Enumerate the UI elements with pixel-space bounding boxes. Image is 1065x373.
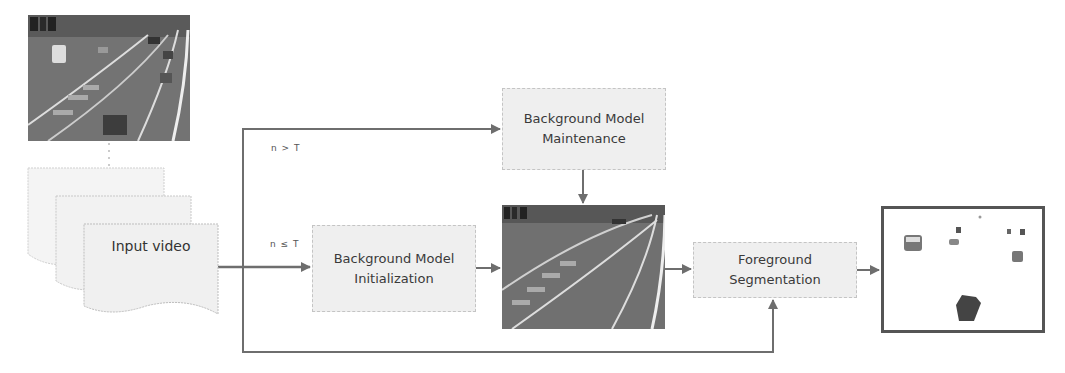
background-model-image [502,205,665,329]
condition-label-init: n ≤ T [270,239,299,249]
fg-label-line1: Foreground [738,250,812,270]
empty-highway-icon [502,205,665,329]
segmented-vehicles-icon [884,209,1042,330]
fg-label-line2: Segmentation [729,270,820,290]
foreground-output-image [881,206,1045,333]
input-frame-image [28,15,190,141]
highway-scene-icon [28,15,190,141]
maintenance-label-line1: Background Model [524,109,645,129]
input-video-label: Input video [84,238,218,254]
maintenance-label-line2: Maintenance [542,129,626,149]
foreground-segmentation-box[interactable]: Foreground Segmentation [693,242,857,298]
background-model-maintenance-box[interactable]: Background Model Maintenance [502,88,666,170]
init-label-line1: Background Model [334,249,455,269]
init-label-line2: Initialization [354,269,433,289]
condition-label-maintenance: n > T [271,143,300,153]
background-model-initialization-box[interactable]: Background Model Initialization [312,225,476,312]
